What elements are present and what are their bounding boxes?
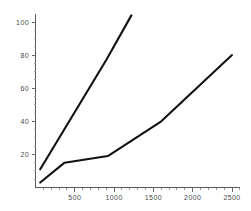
line-chart-plot: 20406080100 5001000150020002500 — [0, 0, 251, 211]
x-tick-label: 1000 — [106, 194, 123, 201]
series-line-shallow — [40, 55, 232, 182]
y-tick-label: 60 — [20, 85, 29, 92]
y-tick-label: 100 — [16, 19, 29, 26]
x-tick-label: 500 — [68, 194, 81, 201]
chart-container: 20406080100 5001000150020002500 — [0, 0, 251, 211]
y-axis: 20406080100 — [16, 14, 35, 188]
x-axis-tick-labels: 5001000150020002500 — [68, 194, 240, 201]
x-tick-label: 2500 — [223, 194, 240, 201]
y-tick-label: 80 — [20, 52, 29, 59]
data-series-group — [40, 15, 232, 182]
y-tick-label: 40 — [20, 118, 29, 125]
x-axis-ticks — [43, 188, 240, 192]
x-axis: 5001000150020002500 — [36, 188, 241, 201]
y-axis-tick-labels: 20406080100 — [16, 19, 29, 158]
x-tick-label: 2000 — [184, 194, 201, 201]
series-line-steep — [40, 15, 131, 169]
y-axis-ticks — [32, 22, 36, 179]
x-tick-label: 1500 — [145, 194, 162, 201]
y-tick-label: 20 — [20, 151, 29, 158]
